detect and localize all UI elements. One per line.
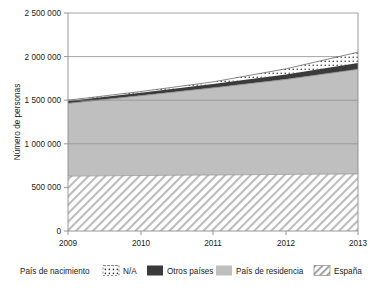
chart-canvas: 2 500 000 2 000 000 1 500 000 1 000 000 … bbox=[0, 0, 373, 292]
area-chart: 2 500 000 2 000 000 1 500 000 1 000 000 … bbox=[0, 0, 373, 292]
legend-swatch-espana[interactable] bbox=[314, 266, 330, 276]
series-area-espana bbox=[68, 174, 358, 231]
legend-label-na: N/A bbox=[123, 267, 137, 276]
legend-swatch-otros-paises[interactable] bbox=[147, 266, 163, 276]
x-tick-labels: 2009 2010 2011 2012 2013 bbox=[59, 239, 368, 248]
legend-swatch-na[interactable] bbox=[103, 266, 119, 276]
y-tick-label: 0 bbox=[56, 227, 61, 236]
y-tick-label: 500 000 bbox=[31, 183, 61, 192]
x-tick-marks bbox=[68, 231, 358, 235]
legend-swatch-pais-de-residencia[interactable] bbox=[216, 266, 232, 276]
x-tick-label: 2011 bbox=[204, 239, 222, 248]
x-tick-label: 2012 bbox=[277, 239, 296, 248]
x-tick-label: 2013 bbox=[349, 239, 368, 248]
y-tick-label: 2 000 000 bbox=[25, 53, 62, 62]
y-tick-labels: 2 500 000 2 000 000 1 500 000 1 000 000 … bbox=[25, 9, 62, 236]
legend: País de nacimiento N/A Otros países País… bbox=[20, 266, 362, 277]
x-tick-label: 2010 bbox=[132, 239, 151, 248]
legend-title: País de nacimiento bbox=[20, 267, 90, 276]
y-tick-marks bbox=[64, 13, 68, 231]
x-tick-label: 2009 bbox=[59, 239, 78, 248]
y-tick-label: 1 500 000 bbox=[25, 96, 62, 105]
legend-label-pais-de-residencia: País de residencia bbox=[236, 267, 304, 276]
y-tick-label: 2 500 000 bbox=[25, 9, 62, 18]
y-axis-title: Número de personas bbox=[13, 84, 22, 160]
legend-label-otros-paises: Otros países bbox=[167, 267, 213, 276]
y-tick-label: 1 000 000 bbox=[25, 140, 62, 149]
legend-label-espana: España bbox=[334, 267, 362, 276]
